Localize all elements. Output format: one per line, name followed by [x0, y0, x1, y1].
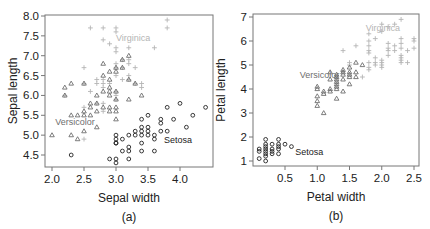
plus-marker-icon	[139, 81, 144, 86]
circle-marker-icon	[270, 142, 274, 146]
triangle-marker-icon	[114, 69, 119, 73]
circle-marker-icon	[114, 161, 118, 165]
circle-marker-icon	[277, 152, 281, 156]
plus-marker-icon	[412, 36, 417, 41]
x-axis: 0.51.01.52.02.5	[277, 166, 422, 184]
x-tick-label: 1.0	[309, 172, 325, 184]
circle-marker-icon	[114, 141, 118, 145]
y-tick-label: 5.0	[23, 129, 39, 141]
y-axis-label: Petal length	[215, 58, 228, 121]
triangle-marker-icon	[315, 103, 320, 107]
triangle-marker-icon	[114, 117, 119, 121]
triangle-marker-icon	[101, 61, 106, 65]
plus-marker-icon	[101, 77, 106, 82]
plus-marker-icon	[133, 65, 138, 70]
plus-marker-icon	[399, 41, 404, 46]
triangle-marker-icon	[101, 105, 106, 109]
x-tick-label: 2.0	[44, 173, 60, 185]
series-versicolor	[315, 60, 365, 114]
plus-marker-icon	[366, 65, 371, 70]
y-tick-label: 7	[241, 11, 247, 23]
triangle-marker-icon	[63, 85, 68, 89]
circle-marker-icon	[69, 153, 73, 157]
series-setosa	[69, 101, 207, 164]
plus-marker-icon	[379, 58, 384, 63]
triangle-marker-icon	[360, 63, 365, 67]
circle-marker-icon	[140, 149, 144, 153]
triangle-marker-icon	[107, 77, 112, 81]
circle-marker-icon	[264, 138, 268, 142]
plus-marker-icon	[126, 57, 131, 62]
y-tick-label: 7.0	[23, 50, 39, 62]
circle-marker-icon	[165, 105, 169, 109]
circle-marker-icon	[146, 113, 150, 117]
circle-marker-icon	[121, 149, 125, 153]
x-tick-label: 3.0	[108, 173, 124, 185]
y-tick-label: 5.5	[23, 109, 39, 121]
plus-marker-icon	[114, 26, 119, 31]
circle-marker-icon	[153, 149, 157, 153]
chart-panel-a: 4.55.05.56.06.57.07.58.02.02.53.03.54.0S…	[0, 0, 215, 229]
circle-marker-icon	[127, 157, 131, 161]
triangle-marker-icon	[127, 53, 132, 57]
plus-marker-icon	[165, 18, 170, 23]
panel-caption: (a)	[122, 210, 137, 224]
species-label-versicolor: Versicolor	[55, 117, 95, 127]
circle-marker-icon	[159, 117, 163, 121]
triangle-marker-icon	[101, 89, 106, 93]
circle-marker-icon	[159, 129, 163, 133]
y-axis: 1234567	[241, 11, 253, 167]
plus-marker-icon	[399, 17, 404, 22]
triangle-marker-icon	[354, 70, 359, 74]
triangle-marker-icon	[315, 99, 320, 103]
plus-marker-icon	[399, 36, 404, 41]
triangle-marker-icon	[354, 60, 359, 64]
species-label-setosa: Setosa	[295, 147, 323, 157]
plus-marker-icon	[373, 55, 378, 60]
y-axis-label: Sepal length	[6, 58, 20, 125]
plus-marker-icon	[101, 109, 106, 114]
circle-marker-icon	[146, 133, 150, 137]
triangle-marker-icon	[69, 133, 74, 137]
circle-marker-icon	[153, 133, 157, 137]
y-tick-label: 3	[241, 107, 247, 119]
plus-marker-icon	[114, 73, 119, 78]
y-axis: 4.55.05.56.06.57.07.58.0	[23, 10, 45, 161]
x-tick-label: 0.5	[277, 172, 293, 184]
circle-marker-icon	[140, 117, 144, 121]
triangle-marker-icon	[354, 75, 359, 79]
triangle-marker-icon	[95, 93, 100, 97]
triangle-marker-icon	[50, 133, 55, 137]
plus-marker-icon	[101, 37, 106, 42]
y-tick-label: 8.0	[23, 10, 39, 22]
species-label-virginica: Virginica	[116, 33, 150, 43]
plus-marker-icon	[366, 39, 371, 44]
circle-marker-icon	[127, 133, 131, 137]
chart-panel-b: 12345670.51.01.52.02.5Petal widthPetal l…	[215, 0, 430, 229]
circle-marker-icon	[114, 137, 118, 141]
species-label-versicolor: Versicolor	[300, 70, 340, 80]
circle-marker-icon	[127, 149, 131, 153]
plus-marker-icon	[354, 43, 359, 48]
y-tick-label: 4.5	[23, 149, 39, 161]
circle-marker-icon	[270, 147, 274, 151]
x-axis-label: Sepal width	[98, 191, 160, 205]
plus-marker-icon	[366, 48, 371, 53]
circle-marker-icon	[133, 129, 137, 133]
y-tick-label: 4	[241, 83, 248, 95]
triangle-marker-icon	[341, 77, 346, 81]
circle-marker-icon	[127, 145, 131, 149]
triangle-marker-icon	[95, 125, 100, 129]
plus-marker-icon	[165, 26, 170, 31]
y-tick-label: 6.5	[23, 70, 39, 82]
circle-marker-icon	[264, 142, 268, 146]
triangle-marker-icon	[75, 137, 80, 141]
circle-marker-icon	[159, 121, 163, 125]
plus-marker-icon	[101, 26, 106, 31]
plus-marker-icon	[360, 75, 365, 80]
circle-marker-icon	[257, 147, 261, 151]
x-axis-label: Petal width	[307, 190, 366, 204]
circle-marker-icon	[114, 157, 118, 161]
circle-marker-icon	[146, 125, 150, 129]
y-tick-label: 2	[241, 131, 247, 143]
